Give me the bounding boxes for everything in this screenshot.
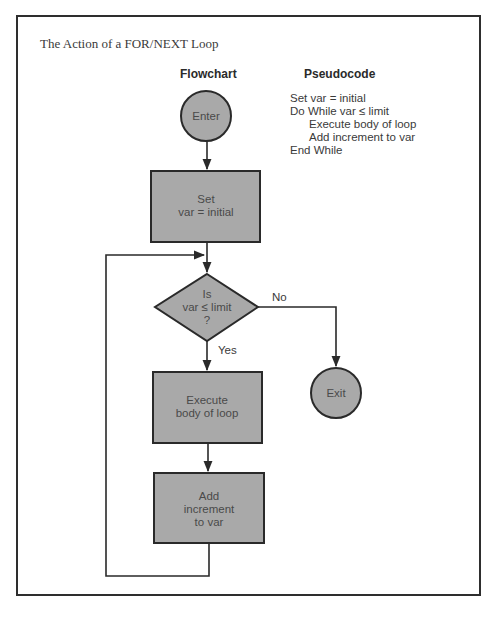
add-label-line3: to var	[195, 516, 224, 528]
yes-label: Yes	[218, 344, 237, 356]
execute-label-line1: Execute	[186, 394, 228, 406]
exit-node: Exit	[311, 368, 361, 418]
enter-node: Enter	[181, 91, 231, 141]
enter-label: Enter	[192, 110, 220, 122]
decision-label-line1: Is	[203, 288, 212, 300]
edge-decision-to-exit	[258, 307, 336, 366]
add-node: Add increment to var	[154, 473, 264, 543]
execute-label-line2: body of loop	[176, 407, 239, 419]
flowchart-diagram: Enter Set var = initial Is var ≤ limit ?…	[0, 0, 497, 617]
decision-label-line2: var ≤ limit	[182, 301, 232, 313]
add-label-line2: increment	[184, 503, 235, 515]
decision-label-line3: ?	[204, 314, 210, 326]
decision-node: Is var ≤ limit ?	[155, 274, 258, 341]
add-label-line1: Add	[199, 490, 219, 502]
set-label-line1: Set	[197, 193, 215, 205]
execute-node: Execute body of loop	[153, 372, 262, 443]
exit-label: Exit	[326, 387, 346, 399]
set-label-line2: var = initial	[178, 206, 233, 218]
no-label: No	[272, 291, 287, 303]
set-node: Set var = initial	[151, 171, 260, 242]
